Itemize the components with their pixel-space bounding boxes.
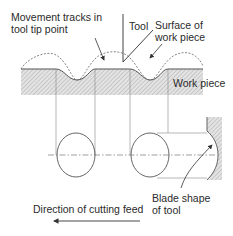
blade-shape-label-line2: of tool xyxy=(152,204,181,216)
surface-leader xyxy=(150,44,162,58)
blade-leader xyxy=(181,145,212,188)
movement-tracks-label-line1: Movement tracks in xyxy=(11,11,102,23)
tool-edge xyxy=(123,30,153,62)
surface-label-line2: work piece xyxy=(155,31,205,43)
blade-shape-label-line1: Blade shape xyxy=(152,192,210,204)
surface-label-line1: Surface of xyxy=(155,19,203,31)
work-piece-label: Work piece xyxy=(173,77,225,89)
feed-direction-label: Direction of cutting feed xyxy=(33,203,143,215)
movement-tracks-label-line2: tool tip point xyxy=(11,23,68,35)
tool-label: Tool xyxy=(129,20,148,32)
movement-tracks-leader xyxy=(95,38,104,60)
